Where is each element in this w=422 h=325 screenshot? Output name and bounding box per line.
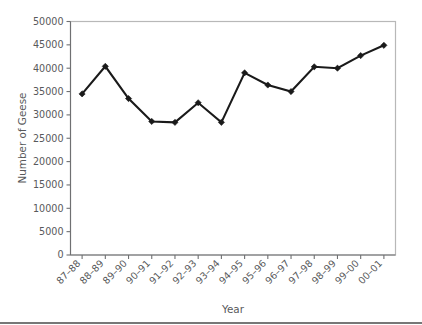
y-tick-label: 0	[57, 249, 63, 260]
y-tick-label: 40000	[33, 63, 64, 74]
y-tick-label: 45000	[33, 39, 64, 50]
y-tick-label: 15000	[33, 179, 64, 190]
y-tick-label: 25000	[33, 133, 64, 144]
y-tick-label: 5000	[39, 226, 63, 237]
figure-container: 0500010000150002000025000300003500040000…	[0, 0, 422, 325]
y-tick-label: 30000	[33, 109, 64, 120]
y-tick-label: 50000	[33, 16, 64, 27]
line-chart: 0500010000150002000025000300003500040000…	[0, 0, 422, 325]
y-axis-title: Number of Geese	[16, 92, 28, 183]
y-tick-label: 10000	[33, 203, 64, 214]
y-tick-label: 35000	[33, 86, 64, 97]
x-axis-title: Year	[221, 303, 245, 315]
y-tick-label: 20000	[33, 156, 64, 167]
